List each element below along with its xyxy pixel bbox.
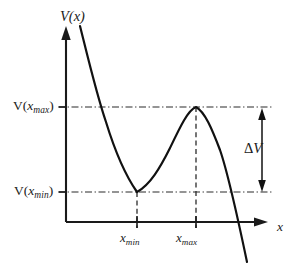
vxmin-subscript: min — [34, 190, 48, 200]
delta-v-arrow-head-down — [258, 180, 266, 192]
x-axis-label: x — [277, 220, 283, 234]
vxmin-close: ) — [49, 183, 54, 198]
x-tick-label-xmin: xmin — [120, 231, 140, 247]
delta-v-arrow-head-up — [258, 108, 266, 120]
delta-v-label: ΔV — [244, 141, 262, 156]
vxmax-open: V( — [13, 98, 27, 113]
y-axis-label: V(x) — [60, 9, 85, 24]
xmax-subscript: max — [182, 237, 197, 247]
vxmin-open: V( — [14, 183, 28, 198]
delta-symbol: Δ — [244, 140, 253, 156]
x-tick-label-xmax: xmax — [176, 231, 197, 247]
x-axis-arrowhead — [254, 217, 268, 226]
potential-energy-figure: V(x) V(xmax) V(xmin) xmin xmax x ΔV — [0, 0, 296, 273]
xmin-subscript: min — [126, 237, 140, 247]
vxmax-close: ) — [49, 98, 54, 113]
y-axis-arrowhead — [61, 26, 70, 40]
vxmax-subscript: max — [33, 105, 49, 115]
potential-curve — [80, 26, 247, 262]
y-tick-label-vxmax: V(xmax) — [13, 99, 54, 115]
delta-variable: V — [253, 140, 262, 156]
plot-canvas — [0, 0, 296, 273]
y-tick-label-vxmin: V(xmin) — [14, 184, 53, 200]
